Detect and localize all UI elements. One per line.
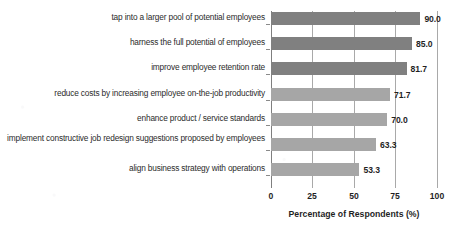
bar-value-label: 90.0 — [424, 14, 440, 24]
xtick-label-0: 0 — [269, 191, 274, 201]
bar-value-label: 81.7 — [411, 64, 427, 74]
bar-row: harness the full potential of employees … — [0, 36, 451, 61]
bar-value-label: 63.3 — [380, 140, 396, 150]
category-label: align business strategy with operations — [3, 164, 265, 174]
category-label: reduce costs by increasing employee on-t… — [3, 89, 265, 99]
chart-title-cropped — [75, 0, 375, 3]
category-label: implement constructive job redesign sugg… — [3, 134, 265, 144]
bar — [271, 88, 390, 101]
xtick-label-25: 25 — [307, 191, 317, 201]
xtick-label-75: 75 — [390, 191, 400, 201]
bar-row: implement constructive job redesign sugg… — [0, 137, 451, 162]
xtick-label-50: 50 — [349, 191, 359, 201]
bar — [271, 62, 407, 75]
bar — [271, 138, 376, 151]
bar-chart: tap into a larger pool of potential empl… — [0, 0, 451, 238]
bar-row: tap into a larger pool of potential empl… — [0, 11, 451, 36]
category-label: improve employee retention rate — [3, 63, 265, 73]
bar-row: align business strategy with operations … — [0, 162, 451, 187]
bar — [271, 113, 387, 126]
bar-value-label: 70.0 — [391, 115, 407, 125]
bar — [271, 163, 359, 176]
x-axis-title: Percentage of Respondents (%) — [271, 209, 437, 219]
category-label: harness the full potential of employees — [3, 38, 265, 48]
bar — [271, 12, 420, 25]
category-label: tap into a larger pool of potential empl… — [3, 13, 265, 23]
bar — [271, 37, 412, 50]
xtick-label-100: 100 — [430, 191, 444, 201]
bar-value-label: 85.0 — [416, 39, 432, 49]
bar-row: improve employee retention rate 81.7 — [0, 61, 451, 86]
category-label: enhance product / service standards — [3, 114, 265, 124]
bar-value-label: 53.3 — [363, 165, 379, 175]
bar-row: reduce costs by increasing employee on-t… — [0, 87, 451, 112]
bar-value-label: 71.7 — [394, 90, 410, 100]
